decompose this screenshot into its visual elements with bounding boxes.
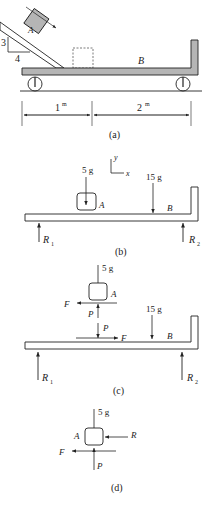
svg-text:1: 1 xyxy=(51,241,54,247)
svg-text:(d): (d) xyxy=(111,482,123,494)
svg-text:R: R xyxy=(41,372,48,383)
wheel-right-icon xyxy=(176,77,190,91)
svg-text:15 g: 15 g xyxy=(146,172,162,182)
svg-text:R: R xyxy=(130,430,137,440)
dynamics-figure: 3 4 A B 1 m 2 m (a) y x 5 g A 15 g B R 1… xyxy=(0,0,213,509)
svg-text:5 g: 5 g xyxy=(98,407,110,417)
svg-text:2: 2 xyxy=(197,241,200,247)
svg-text:15 g: 15 g xyxy=(146,304,162,314)
slope-run-label: 4 xyxy=(15,53,20,64)
svg-text:x: x xyxy=(125,169,130,178)
block-a-label: A xyxy=(27,25,34,35)
block-a-final-dashed xyxy=(73,48,93,68)
cart-b-label: B xyxy=(138,55,144,66)
wheel-left-icon xyxy=(28,77,42,91)
panel-c: 5 g A F P P F 15 g B R 1 R 2 (c) xyxy=(25,263,198,397)
svg-text:A: A xyxy=(73,431,80,441)
panel-b: y x 5 g A 15 g B R 1 R 2 (b) xyxy=(25,153,200,258)
svg-text:B: B xyxy=(167,203,173,213)
dim-right-unit: m xyxy=(145,101,150,107)
svg-text:P: P xyxy=(87,309,94,319)
block-a-fbd xyxy=(89,283,107,300)
svg-text:5 g: 5 g xyxy=(82,165,94,175)
svg-text:R: R xyxy=(188,234,195,245)
svg-text:y: y xyxy=(113,153,118,162)
dim-right-value: 2 xyxy=(137,102,142,113)
svg-text:R: R xyxy=(42,234,49,245)
svg-text:A: A xyxy=(110,289,117,299)
svg-text:R: R xyxy=(186,372,193,383)
svg-text:P: P xyxy=(102,323,109,333)
svg-text:F: F xyxy=(120,333,127,343)
block-a-fbd xyxy=(77,193,96,210)
panel-a: 3 4 A B 1 m 2 m (a) xyxy=(0,7,202,141)
dim-left-value: 1 xyxy=(55,102,60,113)
svg-text:F: F xyxy=(63,299,70,309)
block-a-fbd xyxy=(85,428,103,445)
slope-rise-label: 3 xyxy=(1,37,6,48)
caption-a: (a) xyxy=(109,129,120,141)
svg-text:(b): (b) xyxy=(115,246,127,258)
svg-text:A: A xyxy=(98,200,105,210)
svg-text:2: 2 xyxy=(195,379,198,385)
panel-d: 5 g A R F P (d) xyxy=(58,407,137,494)
svg-text:P: P xyxy=(96,461,103,471)
svg-text:1: 1 xyxy=(50,379,53,385)
svg-text:F: F xyxy=(58,447,65,457)
svg-text:(c): (c) xyxy=(113,385,124,397)
svg-text:5 g: 5 g xyxy=(102,263,114,273)
svg-text:B: B xyxy=(167,331,173,341)
dim-left-unit: m xyxy=(62,101,67,107)
